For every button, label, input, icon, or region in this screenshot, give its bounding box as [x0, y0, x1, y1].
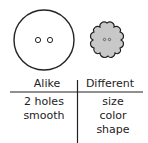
alike-item: 2 holes	[16, 95, 72, 108]
different-item: shape	[88, 123, 138, 136]
alike-item: smooth	[16, 109, 72, 122]
header-alike: Alike	[22, 77, 72, 90]
different-item: size	[88, 95, 138, 108]
different-item: color	[88, 109, 138, 122]
header-different: Different	[80, 77, 140, 90]
comparison-diagram: Alike Different 2 holes smooth size colo…	[0, 0, 148, 143]
small-flower-button-icon	[90, 22, 123, 58]
large-button-icon	[14, 10, 74, 70]
